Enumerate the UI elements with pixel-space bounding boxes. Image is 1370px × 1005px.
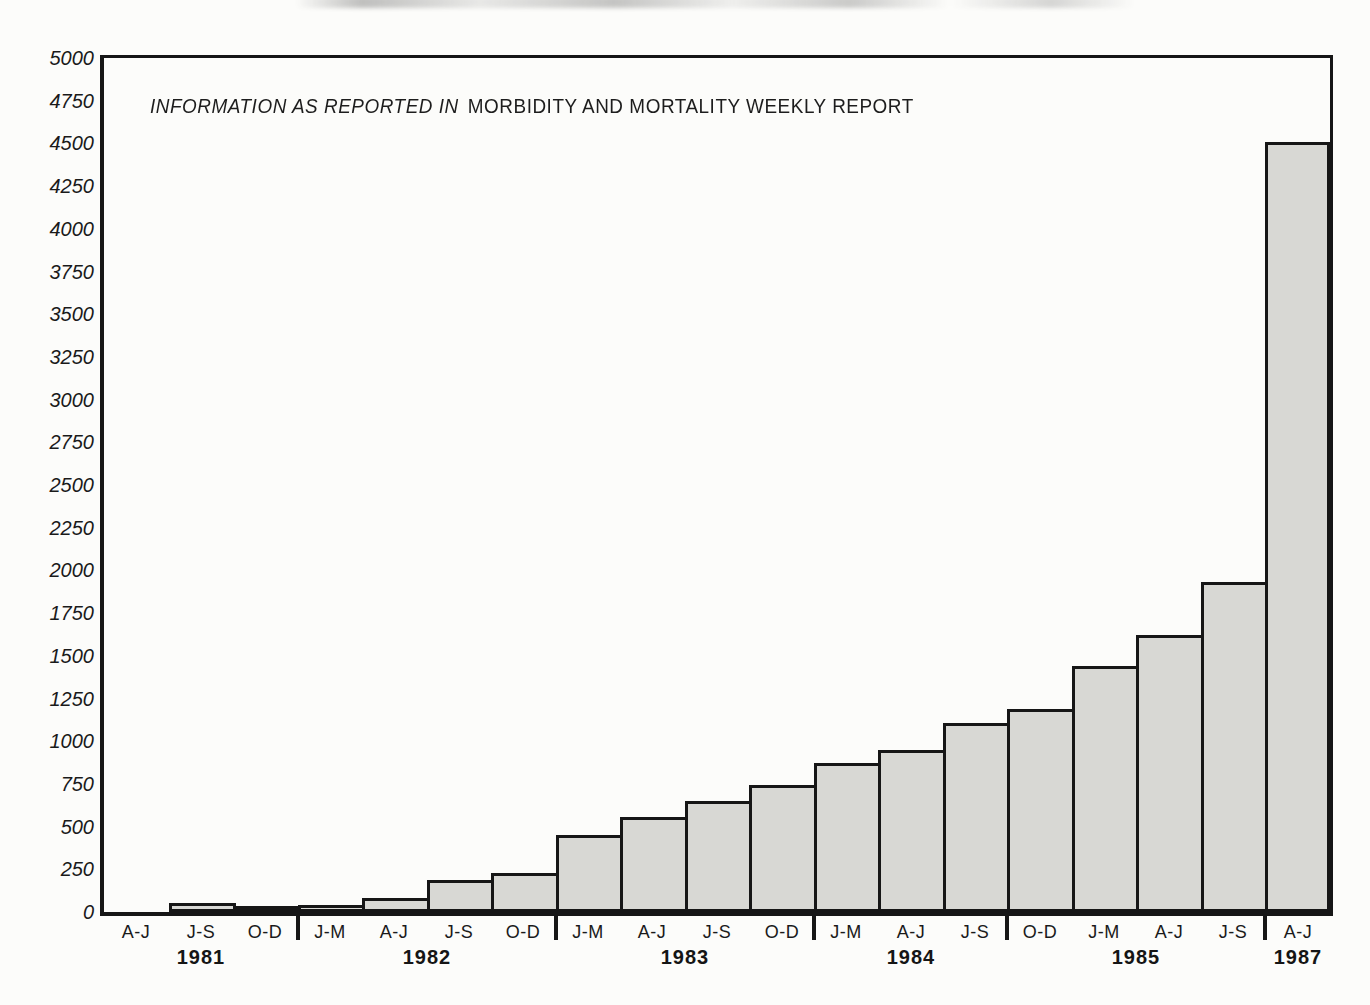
year-divider-after-1982 [554, 914, 558, 940]
bar-O-D-1982 [491, 873, 559, 912]
bar-O-D-1981 [233, 906, 301, 912]
y-tick-3750: 3750 [14, 261, 94, 283]
period-label-J-S-1981: J-S [169, 922, 233, 942]
bar-O-D-1985 [1007, 709, 1075, 912]
y-tick-500: 500 [14, 816, 94, 838]
period-label-A-J-1981: A-J [104, 922, 168, 942]
period-label-O-D-1981: O-D [233, 922, 297, 942]
period-label-A-J-1987: A-J [1266, 922, 1330, 942]
year-label-1982: 1982 [382, 947, 472, 967]
period-label-A-J-1983: A-J [620, 922, 684, 942]
period-label-J-M-1983: J-M [556, 922, 620, 942]
year-divider-after-1985 [1263, 914, 1267, 940]
bar-J-S-1983 [685, 801, 752, 912]
y-tick-3000: 3000 [14, 389, 94, 411]
period-label-A-J-1982: A-J [362, 922, 426, 942]
y-tick-4250: 4250 [14, 175, 94, 197]
y-tick-2500: 2500 [14, 474, 94, 496]
y-tick-2000: 2000 [14, 559, 94, 581]
period-label-J-S-1985: J-S [1201, 922, 1265, 942]
y-tick-5000: 5000 [14, 47, 94, 69]
bar-A-J-1987 [1265, 142, 1330, 912]
bar-A-J-1985 [1136, 635, 1204, 912]
year-label-1981: 1981 [156, 947, 246, 967]
period-label-J-S-1982: J-S [427, 922, 491, 942]
y-tick-1750: 1750 [14, 602, 94, 624]
y-tick-1500: 1500 [14, 645, 94, 667]
bar-J-S-1981 [169, 903, 236, 912]
year-label-1984: 1984 [866, 947, 956, 967]
bar-J-M-1982 [298, 905, 365, 912]
y-tick-4500: 4500 [14, 132, 94, 154]
plot-area: INFORMATION AS REPORTED INMORBIDITY AND … [100, 55, 1333, 916]
chart-title: INFORMATION AS REPORTED INMORBIDITY AND … [150, 94, 914, 118]
year-divider-after-1983 [812, 914, 816, 940]
bar-A-J-1984 [878, 750, 946, 912]
scan-artifact [295, 0, 1135, 8]
bar-A-J-1982 [362, 898, 430, 912]
y-tick-750: 750 [14, 773, 94, 795]
bar-J-M-1985 [1072, 666, 1139, 912]
bar-J-S-1985 [1201, 582, 1268, 912]
year-divider-after-1981 [296, 914, 300, 940]
year-label-1987: 1987 [1253, 947, 1343, 967]
bar-J-S-1982 [427, 880, 494, 912]
year-label-1983: 1983 [640, 947, 730, 967]
y-tick-1250: 1250 [14, 688, 94, 710]
period-label-O-D-1985: O-D [1008, 922, 1072, 942]
bar-J-M-1983 [556, 835, 623, 912]
y-tick-3500: 3500 [14, 303, 94, 325]
bar-O-D-1983 [749, 785, 817, 912]
chart-title-italic: INFORMATION AS REPORTED IN [150, 94, 459, 117]
y-tick-2250: 2250 [14, 517, 94, 539]
y-tick-4000: 4000 [14, 218, 94, 240]
period-label-J-M-1985: J-M [1072, 922, 1136, 942]
y-tick-1000: 1000 [14, 730, 94, 752]
period-label-A-J-1985: A-J [1137, 922, 1201, 942]
chart-canvas: INFORMATION AS REPORTED INMORBIDITY AND … [0, 0, 1370, 1005]
y-tick-2750: 2750 [14, 431, 94, 453]
period-label-J-M-1984: J-M [814, 922, 878, 942]
chart-title-regular: MORBIDITY AND MORTALITY WEEKLY REPORT [468, 94, 914, 117]
y-tick-4750: 4750 [14, 90, 94, 112]
bar-J-M-1984 [814, 763, 881, 912]
bar-J-S-1984 [943, 723, 1010, 912]
period-label-O-D-1982: O-D [491, 922, 555, 942]
period-label-J-M-1982: J-M [298, 922, 362, 942]
period-label-J-S-1984: J-S [943, 922, 1007, 942]
period-label-O-D-1983: O-D [750, 922, 814, 942]
period-label-J-S-1983: J-S [685, 922, 749, 942]
year-divider-after-1984 [1005, 914, 1009, 940]
y-tick-3250: 3250 [14, 346, 94, 368]
bar-A-J-1983 [620, 817, 688, 912]
y-tick-0: 0 [14, 901, 94, 923]
year-label-1985: 1985 [1091, 947, 1181, 967]
y-tick-250: 250 [14, 858, 94, 880]
period-label-A-J-1984: A-J [879, 922, 943, 942]
